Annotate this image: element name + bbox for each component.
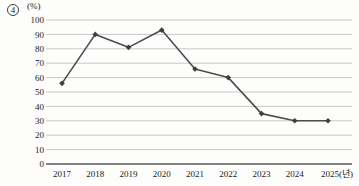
series-line xyxy=(62,30,328,121)
y-tick-label: 70 xyxy=(35,58,45,68)
data-point-marker xyxy=(126,45,132,51)
y-tick-label: 40 xyxy=(35,102,45,112)
y-tick-label: 100 xyxy=(31,15,45,25)
data-point-marker xyxy=(325,118,331,124)
x-tick-label: 2022 xyxy=(219,169,237,179)
chart-panel: 4 (%) 0102030405060708090100201720182019… xyxy=(0,0,359,186)
y-tick-label: 0 xyxy=(40,159,45,169)
x-tick-label: 2017 xyxy=(53,169,72,179)
x-tick-label: 2024 xyxy=(286,169,305,179)
x-tick-label: 2020 xyxy=(153,169,172,179)
x-tick-label: 2018 xyxy=(86,169,105,179)
y-tick-label: 10 xyxy=(35,145,45,155)
data-point-marker xyxy=(292,118,298,124)
x-tick-label: 2021 xyxy=(186,169,204,179)
y-tick-label: 90 xyxy=(35,30,45,40)
y-tick-label: 50 xyxy=(35,87,45,97)
x-tick-label: 2023 xyxy=(253,169,272,179)
line-chart: 0102030405060708090100201720182019202020… xyxy=(0,0,359,186)
x-tick-label: 2019 xyxy=(120,169,139,179)
y-tick-label: 20 xyxy=(35,130,45,140)
y-tick-label: 30 xyxy=(35,116,45,126)
x-tick-label: 2025(년) xyxy=(321,169,353,179)
y-tick-label: 60 xyxy=(35,73,45,83)
y-tick-label: 80 xyxy=(35,44,45,54)
